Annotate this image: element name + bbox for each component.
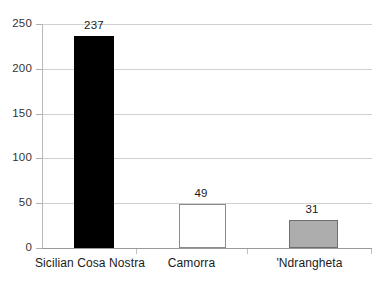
category-label-ndrangheta: 'Ndrangheta: [247, 256, 372, 270]
y-tick-250: [36, 24, 42, 25]
y-tick-150: [36, 114, 42, 115]
category-label-camorra: Camorra: [136, 256, 247, 270]
value-label-camorra: 49: [161, 187, 241, 199]
bar-sicilian-cosa-nostra: [74, 36, 114, 248]
y-tick-0: [36, 248, 42, 249]
y-axis-line: [42, 24, 43, 248]
y-axis-label-150: 150: [12, 108, 32, 119]
x-tick-1: [136, 249, 137, 254]
x-tick-3: [371, 249, 372, 254]
y-tick-200: [36, 69, 42, 70]
bar-chart: 250 200 150 100 50 0 237 49 31 Sicilian …: [0, 0, 381, 283]
bar-ndrangheta: [289, 220, 338, 248]
y-axis-label-250: 250: [12, 18, 32, 29]
y-axis-label-100: 100: [12, 152, 32, 163]
y-axis-label-200: 200: [12, 63, 32, 74]
bar-camorra: [179, 204, 226, 248]
y-axis-label-50: 50: [19, 197, 32, 208]
y-axis-label-0: 0: [25, 242, 32, 253]
x-tick-2: [247, 249, 248, 254]
x-axis-line: [42, 248, 372, 249]
value-label-sicilian-cosa-nostra: 237: [54, 19, 134, 31]
y-tick-100: [36, 158, 42, 159]
y-tick-50: [36, 203, 42, 204]
value-label-ndrangheta: 31: [272, 203, 352, 215]
